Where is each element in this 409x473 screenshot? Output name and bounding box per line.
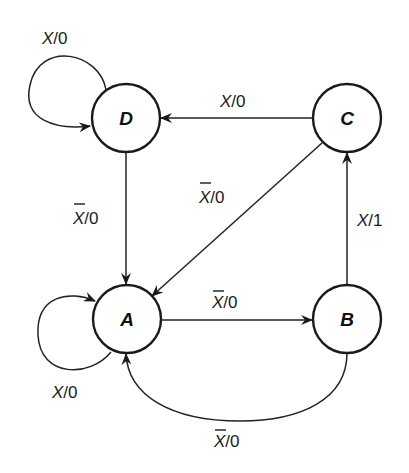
state-c: C xyxy=(313,84,381,152)
edge-b-to-a xyxy=(126,353,347,421)
label-d-to-a: X/0 xyxy=(72,204,99,228)
state-d-label: D xyxy=(119,108,133,129)
label-a-to-b: X/0 xyxy=(211,291,238,312)
state-b-label: B xyxy=(340,309,354,330)
label-c-to-d: X/0 xyxy=(219,92,246,111)
edge-c-to-a xyxy=(152,143,322,296)
label-a-loop: X/0 xyxy=(51,383,78,402)
label-b-to-c: X/1 xyxy=(356,211,383,230)
label-d-loop: X/0 xyxy=(41,29,68,48)
svg-text:X/0: X/0 xyxy=(72,209,99,228)
state-a-label: A xyxy=(119,309,134,330)
svg-text:X/0: X/0 xyxy=(213,432,240,451)
label-c-to-a: X/0 xyxy=(198,183,225,207)
state-a: A xyxy=(93,285,161,353)
state-d: D xyxy=(92,84,160,152)
state-c-label: C xyxy=(340,108,354,129)
state-diagram: D C A B X/0 X/0 X/0 X/0 X/1 xyxy=(0,0,409,473)
state-b: B xyxy=(313,285,381,353)
label-b-to-a: X/0 xyxy=(213,430,240,451)
svg-text:X/0: X/0 xyxy=(211,293,238,312)
svg-text:X/0: X/0 xyxy=(198,188,225,207)
